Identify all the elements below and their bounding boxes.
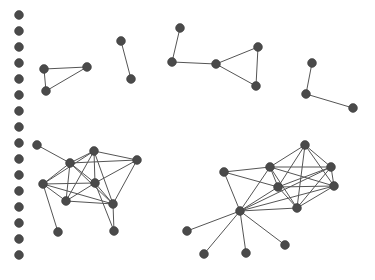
graph-node [39,180,48,189]
graph-node [183,227,192,236]
graph-node [15,27,24,36]
graph-node [15,139,24,148]
graph-node [212,60,221,69]
graph-node [15,187,24,196]
graph-node [110,227,119,236]
graph-node [274,183,283,192]
graph-node [91,179,100,188]
graph-node [15,251,24,260]
graph-node [15,155,24,164]
graph-node [15,171,24,180]
graph-node [15,107,24,116]
graph-node [293,204,302,213]
graph-node [133,156,142,165]
graph-node [15,123,24,132]
graph-node [15,219,24,228]
graph-node [90,147,99,156]
graph-node [301,141,310,150]
graph-node [302,90,311,99]
graph-node [281,241,290,250]
graph-node [83,63,92,72]
graph-node [15,11,24,20]
graph-node [117,37,126,46]
graph-node [15,91,24,100]
graph-node [15,43,24,52]
graph-node [242,249,251,258]
graph-node [220,168,229,177]
graph-node [15,203,24,212]
graph-node [168,58,177,67]
graph-node [254,43,263,52]
graph-node [327,163,336,172]
graph-node [33,141,42,150]
graph-node [42,87,51,96]
graph-node [236,207,245,216]
graph-node [66,159,75,168]
graph-node [54,228,63,237]
graph-node [349,104,358,113]
graph-node [109,200,118,209]
graph-node [200,250,209,259]
graph-node [62,197,71,206]
graph-node [127,75,136,84]
graph-node [266,163,275,172]
figure-background [0,0,375,280]
graph-node [15,75,24,84]
graph-node [40,65,49,74]
graph-node [176,24,185,33]
graph-node [15,59,24,68]
network-graph-figure [0,0,375,280]
graph-node [330,182,339,191]
graph-node [308,59,317,68]
graph-node [252,82,261,91]
graph-node [15,235,24,244]
